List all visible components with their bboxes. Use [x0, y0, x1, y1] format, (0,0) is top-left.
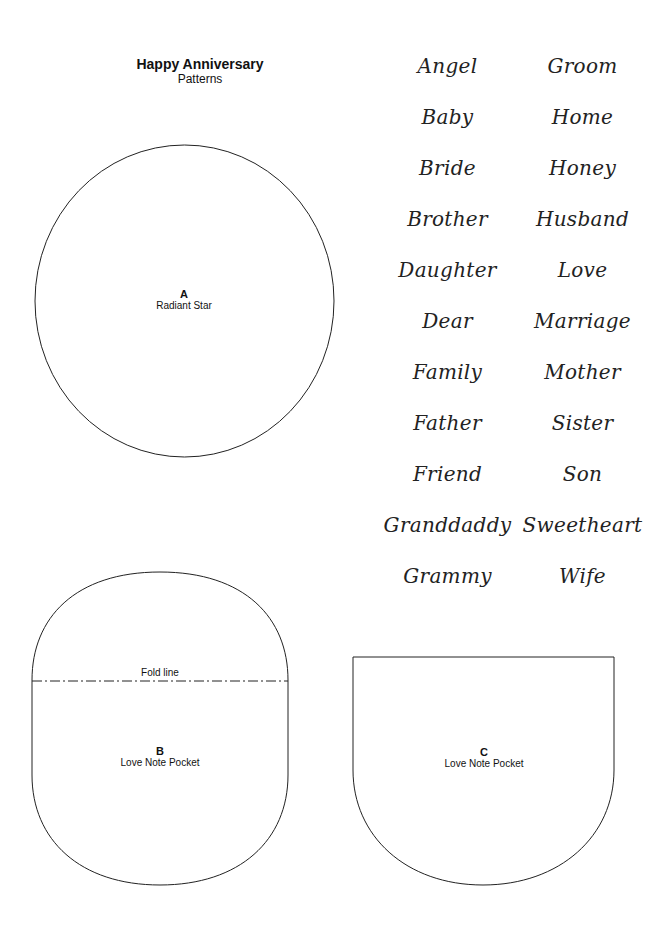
- pattern-c-outline: [353, 657, 614, 885]
- pattern-b-letter: B: [100, 745, 220, 757]
- pattern-c-letter: C: [424, 746, 544, 758]
- pattern-a-label: A Radiant Star: [124, 288, 244, 312]
- pattern-b-outline: [32, 572, 288, 885]
- pattern-b-label: B Love Note Pocket: [100, 745, 220, 769]
- pattern-c-name: Love Note Pocket: [445, 758, 524, 769]
- pattern-a-name: Radiant Star: [156, 300, 212, 311]
- pattern-shapes: [0, 0, 655, 930]
- pattern-a-letter: A: [124, 288, 244, 300]
- fold-line-label: Fold line: [140, 667, 180, 678]
- pattern-c-label: C Love Note Pocket: [424, 746, 544, 770]
- pattern-b-name: Love Note Pocket: [121, 757, 200, 768]
